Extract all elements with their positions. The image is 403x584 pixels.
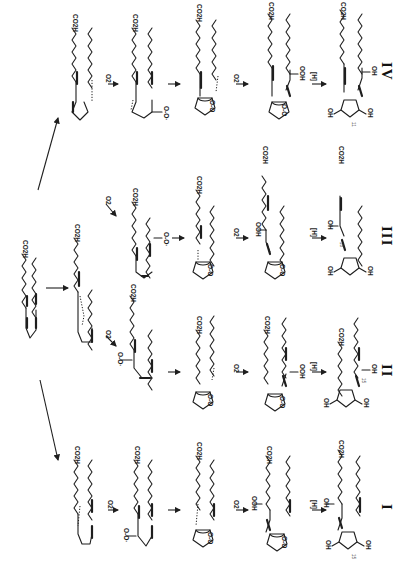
acid-label: CO2H <box>262 146 269 164</box>
start-acid-label: CO2H <box>22 240 29 258</box>
endoperoxide-label: O-O <box>279 396 286 408</box>
arrow-to-i <box>40 380 58 460</box>
acid-label: CO2H <box>74 446 81 464</box>
hydroperoxide-label: OOH <box>299 66 306 81</box>
acid-label: CO2H <box>338 328 345 346</box>
reagent-o2: O2 <box>233 228 240 237</box>
acid-label: CO2H <box>196 176 203 194</box>
reagent-reduction: [H] <box>311 72 318 81</box>
series-iv-isoprostane <box>334 10 370 117</box>
series-label-i: I <box>378 504 395 511</box>
stereo-mark-iv: 11 <box>351 122 356 127</box>
central-radical <box>74 238 92 350</box>
series-iii-peroxyl <box>132 202 162 278</box>
acid-label: CO2H <box>132 188 139 206</box>
reagent-reduction: [H] <box>311 362 318 371</box>
hydroperoxide-label: OOH <box>251 496 258 511</box>
acid-label: CO2H <box>338 146 345 164</box>
reagent-o2: O2 <box>107 500 114 509</box>
endoperoxide-label: O-O <box>207 394 214 406</box>
series-iv-peroxyl <box>131 28 162 118</box>
stereo-mark-iii: 18 <box>339 242 344 247</box>
peroxyl-label: O-O· <box>163 232 170 246</box>
endoperoxide-label: O-O <box>207 532 214 544</box>
series-ii-peroxyl <box>120 296 152 390</box>
peroxyl-label: O-O· <box>163 106 170 120</box>
acid-label: CO2H <box>130 284 137 302</box>
reagent-o2: O2 <box>233 364 240 373</box>
reagent-reduction: [H] <box>311 500 318 509</box>
endoperoxide-label: O-O <box>281 104 288 116</box>
series-iii-isoprostane <box>330 196 366 275</box>
hydroperoxide-label: OOH <box>255 222 262 237</box>
series-label-iv: IV <box>378 62 395 81</box>
acid-label: CO2H <box>196 4 203 22</box>
acid-label: CO2H <box>134 446 141 464</box>
hydroxyl-label: OH <box>327 108 334 118</box>
peroxyl-label: O-O· <box>123 528 130 542</box>
hydroperoxide-label: OOH <box>299 364 306 379</box>
acid-label: CO2H <box>264 316 271 334</box>
endoperoxide-label: O-O <box>207 264 214 276</box>
endoperoxide-label: O-O <box>279 264 286 276</box>
acid-label: CO2H <box>340 2 347 20</box>
reaction-scheme <box>0 0 403 584</box>
peroxyl-label: O-O· <box>117 352 124 366</box>
stereo-mark-i: 15 <box>351 554 356 559</box>
series-i-isoprostane <box>326 450 364 549</box>
hydroxyl-label: OH <box>325 540 332 550</box>
reagent-o2: O2 <box>105 196 112 205</box>
acid-label: CO2H <box>74 224 81 242</box>
series-label-iii: III <box>378 226 395 247</box>
hydroxyl-label: OH <box>363 398 370 408</box>
hydroxyl-label: OH <box>327 266 334 276</box>
hydroxyl-label: OH <box>367 108 374 118</box>
acid-label: CO2H <box>196 442 203 460</box>
reagent-o2: O2 <box>105 74 112 83</box>
stereo-mark-ii: 15 <box>361 378 366 383</box>
series-label-ii: II <box>378 364 395 378</box>
hydroxyl-label: OH <box>371 66 378 76</box>
endoperoxide-label: O-O <box>281 536 288 548</box>
hydroxyl-label: OH <box>367 266 374 276</box>
acid-label: CO2H <box>72 14 79 32</box>
hydroxyl-label: OH <box>327 220 334 230</box>
series-ii-isoprostane <box>330 318 370 407</box>
series-iv-radical <box>72 28 92 120</box>
hydroxyl-label: OH <box>371 364 378 374</box>
hydroxyl-label: OH <box>365 540 372 550</box>
acid-label: CO2H <box>338 440 345 458</box>
acid-label: CO2H <box>132 14 139 32</box>
reagent-o2: O2 <box>105 330 112 339</box>
hydroxyl-label: OH <box>323 398 330 408</box>
reagent-reduction: [H] <box>311 228 318 237</box>
endoperoxide-label: O-O <box>209 100 216 112</box>
reagent-o2: O2 <box>233 74 240 83</box>
series-i-radical <box>74 460 92 544</box>
arrow-o2-iii-1 <box>106 204 116 216</box>
arachidonic-acid <box>22 254 36 338</box>
acid-label: CO2H <box>268 2 275 20</box>
arrow-to-iv <box>38 118 58 190</box>
acid-label: CO2H <box>196 316 203 334</box>
hydroxyl-label: OH <box>323 498 330 508</box>
reagent-o2: O2 <box>233 500 240 509</box>
acid-label: CO2H <box>266 446 273 464</box>
